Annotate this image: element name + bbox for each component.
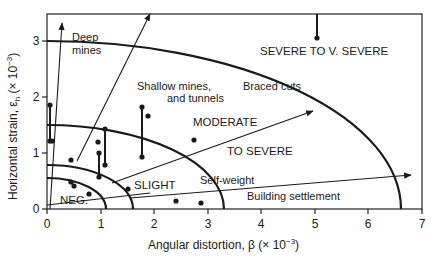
y-tick-2: 2 <box>33 90 40 104</box>
x-tick-4: 4 <box>258 217 265 231</box>
x-tick-5: 5 <box>312 217 319 231</box>
y-tick-1: 1 <box>33 146 40 160</box>
zone-label-moderate: MODERATE <box>193 116 258 128</box>
y-tick-0: 0 <box>33 202 40 216</box>
x-tick-1: 1 <box>98 217 105 231</box>
label-shallow-2: and tunnels <box>167 92 224 104</box>
label-braced-cuts: Braced cuts <box>243 80 302 92</box>
x-tick-2: 2 <box>151 217 158 231</box>
zone-label-neg: NEG. <box>60 194 88 206</box>
x-axis-label: Angular distortion, β (× 10−3) <box>148 237 299 252</box>
zone-label-severe: SEVERE TO V. SEVERE <box>260 45 389 57</box>
y-axis-label: Horizontal strain, εh (× 10−3) <box>5 53 22 200</box>
damage-chart: 0 1 2 3 4 5 6 7 0 1 2 3 Angular distorti… <box>0 0 434 258</box>
x-tick-3: 3 <box>205 217 212 231</box>
y-axis: 0 1 2 3 <box>33 34 47 216</box>
label-self-weight: Self-weight <box>200 174 254 186</box>
zone-label-slight: SLIGHT <box>134 179 176 191</box>
label-shallow-1: Shallow mines, <box>137 80 211 92</box>
x-tick-6: 6 <box>365 217 372 231</box>
arrow-deep-mines <box>50 23 62 209</box>
x-tick-7: 7 <box>419 217 426 231</box>
label-deep-mines-1: Deep <box>72 31 98 43</box>
x-axis: 0 1 2 3 4 5 6 7 <box>44 209 426 231</box>
x-tick-0: 0 <box>44 217 51 231</box>
zone-label-to-severe: TO SEVERE <box>227 145 293 157</box>
label-building-settlement: Building settlement <box>247 190 340 202</box>
label-deep-mines-2: mines <box>72 44 102 56</box>
y-tick-3: 3 <box>33 34 40 48</box>
data-points <box>47 35 319 205</box>
